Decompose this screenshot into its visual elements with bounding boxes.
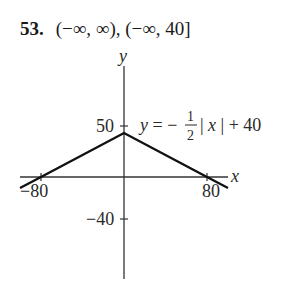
x-tick-label-neg80: −80 — [20, 181, 48, 201]
graph: y x 50 −40 −80 80 y = − 1 2 | x | + 40 — [0, 0, 287, 288]
y-axis-label: y — [117, 46, 127, 66]
fraction-denominator: 2 — [187, 128, 194, 143]
y-tick-label-neg40: −40 — [86, 209, 114, 229]
svg-text:y = −: y = − — [138, 115, 177, 135]
equation-label: y = − 1 2 | x | + 40 — [138, 109, 261, 143]
x-tick-label-80: 80 — [202, 181, 220, 201]
svg-text:| x | + 40: | x | + 40 — [200, 115, 261, 135]
x-axis-label: x — [230, 166, 239, 186]
fraction-numerator: 1 — [187, 109, 194, 124]
y-tick-label-50: 50 — [96, 116, 114, 136]
